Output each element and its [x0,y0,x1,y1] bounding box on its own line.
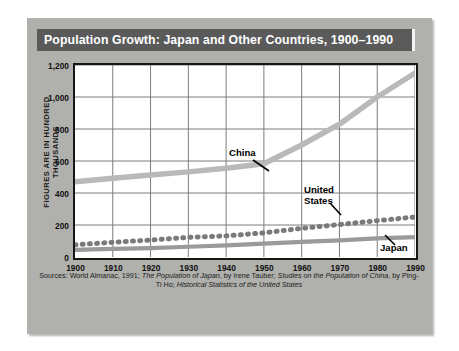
y-tick-label: 800 [55,125,69,135]
series-label-china: China [229,148,256,159]
sources-line1-a: Sources: World Almanac, 1991; [39,271,142,280]
plot-area: 02004006008001,0001,200 1900191019201930… [73,63,418,260]
y-tick-label: 1,200 [48,61,69,71]
sources-line1-d: Studies on the [278,271,324,280]
sources-line2-c: Historical Statistics of the United Stat… [177,280,302,289]
series-label-japan: Japan [380,243,408,254]
series-label-united-states-line2: States [304,196,334,207]
chart-title-bar: Population Growth: Japan and Other Count… [37,29,415,51]
y-tick-label: 600 [55,157,69,167]
sources-note: Sources: World Almanac, 1991; The Popula… [39,271,419,290]
sources-line1-b: The Population of Japan [142,271,220,280]
chart-page: Population Growth: Japan and Other Count… [0,0,459,351]
y-tick-label: 1,000 [48,93,69,103]
y-tick-label: 0 [64,253,69,263]
series-label-united-states: United States [304,185,334,206]
sources-line1-c: , by Irene Tauber; [220,271,278,280]
y-tick-label: 200 [55,221,69,231]
y-tick-label: 400 [55,189,69,199]
chart-svg [75,65,415,257]
series-label-united-states-line1: United [304,185,334,196]
sources-line2-a: Population of China [326,271,389,280]
page-title: Population Growth: Japan and Other Count… [37,33,393,47]
chart-panel: Population Growth: Japan and Other Count… [27,18,432,334]
plot-frame [73,63,418,260]
